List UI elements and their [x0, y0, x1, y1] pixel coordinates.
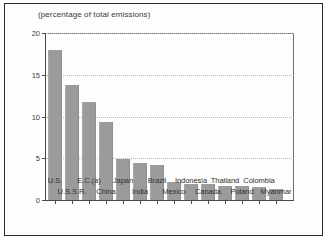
y-tick-mark: [42, 200, 46, 201]
y-tick-label: 10: [32, 112, 40, 121]
x-axis-label: Japan: [113, 176, 133, 185]
x-axis-label: Myanmar: [261, 187, 292, 196]
x-tick-mark: [225, 200, 226, 204]
x-axis-label: India: [132, 187, 148, 196]
x-tick-mark: [157, 200, 158, 204]
y-tick-label: 15: [32, 70, 40, 79]
x-tick-mark: [259, 200, 260, 204]
x-tick-mark: [276, 200, 277, 204]
x-tick-mark: [55, 200, 56, 204]
y-tick-mark: [42, 33, 46, 34]
x-tick-mark: [191, 200, 192, 204]
x-tick-mark: [72, 200, 73, 204]
x-tick-mark: [140, 200, 141, 204]
x-axis-label: Indonesia: [175, 176, 207, 185]
x-tick-mark: [106, 200, 107, 204]
x-axis-label: Thailand: [211, 176, 239, 185]
x-axis-label: Mexico: [162, 187, 185, 196]
x-tick-mark: [123, 200, 124, 204]
x-axis-label: China: [96, 187, 115, 196]
x-axis-label: Brazil: [148, 176, 166, 185]
x-axis-label: Canada: [195, 187, 221, 196]
bar: [82, 102, 96, 200]
x-tick-mark: [174, 200, 175, 204]
x-axis-label: U.S.S.R.: [58, 187, 87, 196]
y-tick-label: 0: [36, 196, 40, 205]
y-tick-label: 20: [32, 29, 40, 38]
x-axis-label: E.C.(a): [77, 176, 100, 185]
y-tick-mark: [42, 75, 46, 76]
x-tick-mark: [242, 200, 243, 204]
x-axis-label: Poland: [230, 187, 253, 196]
y-tick-mark: [42, 117, 46, 118]
y-tick-mark: [42, 158, 46, 159]
x-axis-label: U.S.: [48, 176, 62, 185]
chart-title: (percentage of total emissions): [38, 10, 151, 19]
x-axis-label: Colombia: [243, 176, 274, 185]
y-tick-label: 5: [36, 154, 40, 163]
chart-frame: (percentage of total emissions) 05101520…: [4, 3, 323, 236]
gridline: [46, 33, 294, 34]
x-tick-mark: [89, 200, 90, 204]
plot-area: 05101520: [46, 33, 294, 200]
x-tick-mark: [208, 200, 209, 204]
gridline: [46, 75, 294, 76]
x-axis-line: [45, 200, 294, 201]
